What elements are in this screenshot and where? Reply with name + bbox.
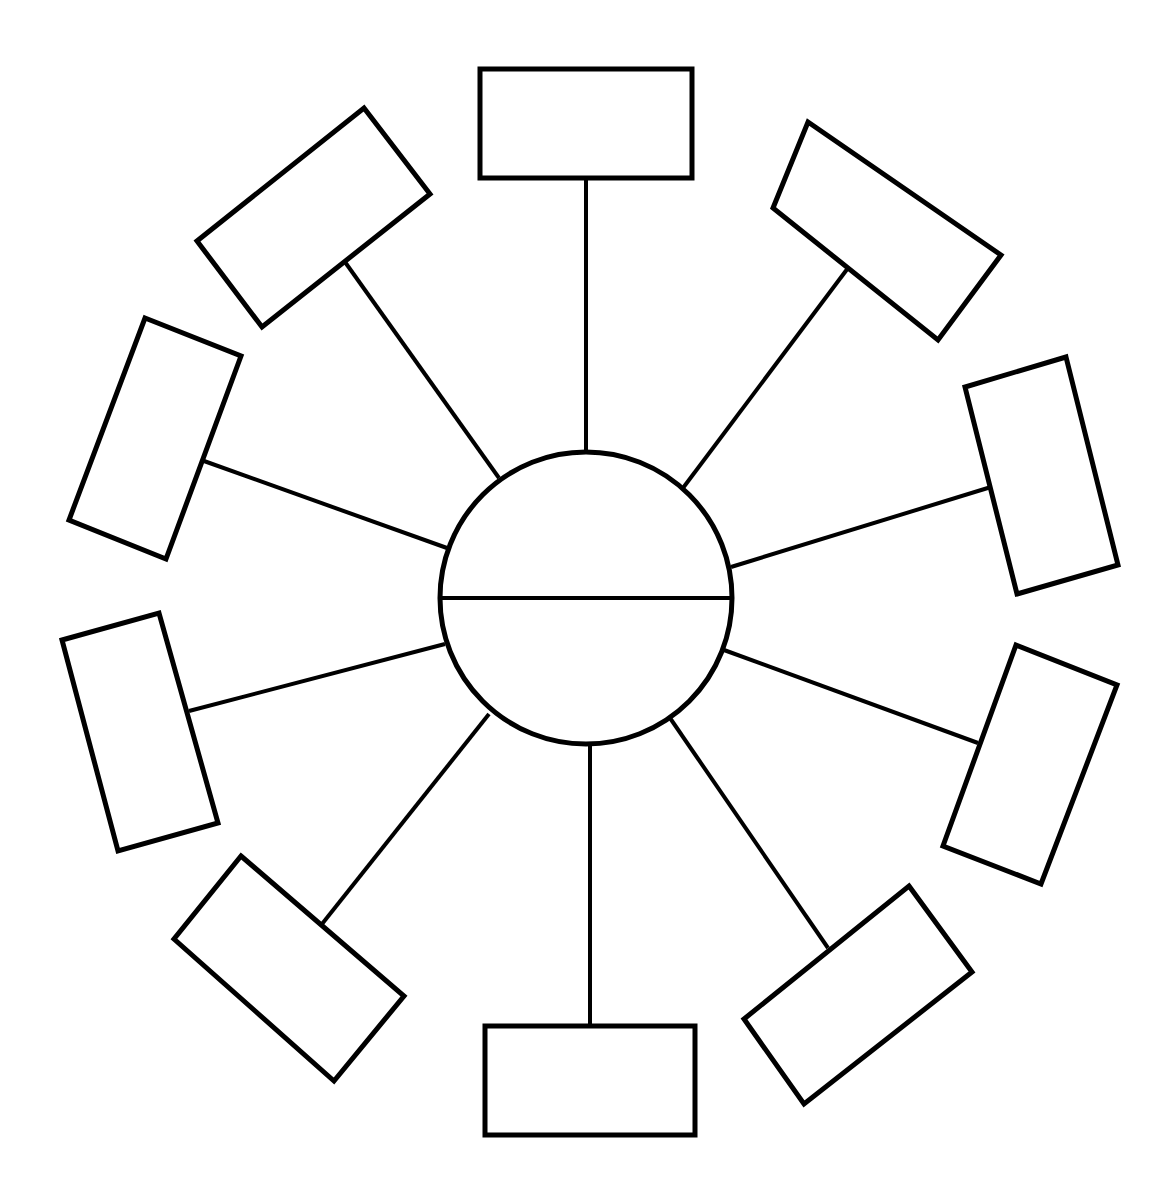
text-box-right-lower[interactable] xyxy=(943,645,1117,884)
spoke-line-bottom-right xyxy=(670,718,828,948)
spoke-line-right-upper xyxy=(731,487,991,567)
spoke-line-top-left xyxy=(345,262,499,478)
text-box-outline xyxy=(197,108,430,327)
spoke-line-right-lower xyxy=(724,650,978,743)
text-box-outline xyxy=(480,69,692,178)
text-box-bottom[interactable] xyxy=(485,1026,695,1135)
text-box-top-left[interactable] xyxy=(197,108,430,327)
text-box-outline xyxy=(744,886,972,1104)
spoke-line-bottom-left xyxy=(322,714,489,924)
text-box-top-right[interactable] xyxy=(773,122,1001,340)
spoke-line-left-upper xyxy=(204,461,447,548)
text-box-outline xyxy=(943,645,1117,884)
text-box-top[interactable] xyxy=(480,69,692,178)
spoke-line-left-lower xyxy=(189,644,445,711)
text-box-bottom-left[interactable] xyxy=(174,856,404,1081)
text-box-outline xyxy=(773,122,1001,340)
text-box-outline xyxy=(69,318,241,559)
center-circle-group xyxy=(440,452,732,744)
text-box-outline xyxy=(965,357,1118,594)
text-box-right-upper[interactable] xyxy=(965,357,1118,594)
text-box-left-upper[interactable] xyxy=(69,318,241,559)
text-box-outline xyxy=(485,1026,695,1135)
text-box-left-lower[interactable] xyxy=(62,613,218,851)
text-box-bottom-right[interactable] xyxy=(744,886,972,1104)
text-box-outline xyxy=(174,856,404,1081)
text-box-outline xyxy=(62,613,218,851)
spoke-line-top-right xyxy=(683,268,848,488)
radial-diagram xyxy=(0,0,1176,1186)
